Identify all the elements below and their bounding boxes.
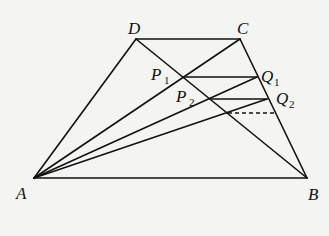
segment-DA [34, 39, 136, 178]
label-Q1-sub: 1 [274, 76, 280, 88]
label-B: B [308, 185, 319, 204]
segment-AQ1 [34, 77, 257, 178]
label-P1-sub: 1 [164, 74, 170, 86]
geometry-diagram: A B D C P 1 Q 1 P 2 Q 2 [0, 0, 329, 236]
label-P2-sub: 2 [189, 96, 195, 108]
segment-AQ2 [34, 99, 267, 178]
label-P1: P [150, 65, 161, 84]
trapezoid-sides [34, 39, 307, 178]
label-Q2: Q [276, 89, 288, 108]
segment-BD [136, 39, 307, 178]
label-A: A [15, 184, 27, 203]
point-labels: A B D C P 1 Q 1 P 2 Q 2 [15, 19, 319, 204]
label-Q1: Q [261, 67, 273, 86]
label-C: C [237, 19, 249, 38]
segment-BC [240, 39, 307, 178]
label-D: D [127, 19, 141, 38]
label-P2: P [175, 87, 186, 106]
segment-AC [34, 39, 240, 178]
label-Q2-sub: 2 [289, 98, 295, 110]
diagonals [34, 39, 307, 178]
